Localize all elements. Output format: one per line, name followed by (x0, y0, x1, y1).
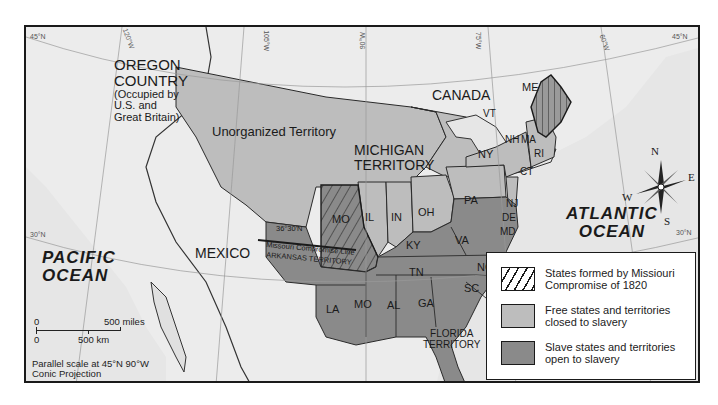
scale-tick (120, 327, 121, 331)
state-label-ct: CT (520, 167, 533, 178)
legend-item-compromise: States formed by Missiouri Compromise of… (501, 267, 685, 291)
scale-line (36, 330, 120, 331)
legend-item-free: Free states and territories closed to sl… (501, 304, 685, 328)
label-36-30-n: 36°30'N (276, 225, 303, 233)
scale-tick (36, 327, 37, 334)
label-mexico: MEXICO (195, 246, 250, 261)
compass-star-icon (626, 152, 696, 222)
compass-w: W (622, 192, 632, 204)
state-label-oh: OH (418, 207, 435, 219)
lon-75: 75°W (475, 32, 482, 49)
state-label-ri: RI (534, 149, 544, 160)
lat-45-left: 45°N (30, 33, 46, 40)
state-label-vt: VT (483, 109, 496, 120)
state-label-ky: KY (406, 240, 421, 252)
map-legend: States formed by Missiouri Compromise of… (486, 252, 696, 380)
lat-30-right: 30°N (676, 229, 692, 236)
projection-note: Parallel scale at 45°N 90°W Conic Projec… (32, 359, 149, 379)
label-michigan-territory: MICHIGAN TERRITORY (354, 143, 434, 172)
label-oregon-country: OREGON COUNTRY (Occupied by U.S. and Gre… (114, 57, 188, 123)
state-label-nh: NH (505, 135, 519, 146)
legend-item-slave: Slave states and territories open to sla… (501, 341, 685, 365)
lat-30-left: 30°N (30, 231, 46, 238)
compass-s: S (664, 216, 670, 228)
state-label-md: MD (500, 227, 516, 238)
state-label-al: AL (387, 300, 400, 312)
lon-90: 90°W (359, 32, 366, 49)
state-label-pa: PA (464, 195, 478, 207)
state-label-me: ME (522, 82, 539, 94)
label-pacific-ocean: PACIFIC OCEAN (42, 249, 116, 285)
state-label-nj: NJ (506, 199, 518, 210)
label-unorganized-territory: Unorganized Territory (212, 125, 336, 139)
slave-swatch (501, 341, 535, 365)
state-label-de: DE (502, 213, 516, 224)
state-label-ny: NY (478, 149, 493, 161)
state-label-la: LA (326, 304, 339, 316)
lat-45-right: 45°N (672, 33, 688, 40)
state-label-tn: TN (409, 267, 424, 279)
label-canada: CANADA (432, 88, 490, 103)
scale-bar: 0 500 miles 0 500 km (32, 319, 152, 359)
state-label-in: IN (391, 212, 402, 224)
compass-e: E (688, 172, 695, 184)
state-label-ms: MO (354, 299, 372, 311)
compass-n: N (651, 146, 659, 158)
free-swatch (501, 304, 535, 328)
state-label-ma: MA (521, 135, 536, 146)
state-label-mo: MO (332, 214, 350, 226)
compass-rose: N S E W (626, 152, 696, 222)
state-label-sc: SC (464, 283, 479, 295)
hatched-swatch (501, 267, 535, 291)
state-label-il: IL (365, 212, 374, 224)
label-florida-territory: FLORIDA TERRITORY (423, 329, 480, 350)
state-label-ga: GA (418, 298, 434, 310)
lon-105: 105°W (263, 30, 270, 51)
state-label-va: VA (455, 235, 469, 247)
